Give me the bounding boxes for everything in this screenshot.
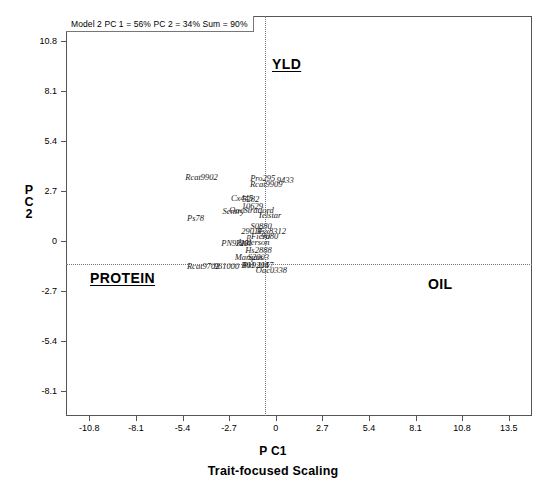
plot-area	[66, 16, 532, 416]
y-axis-tick-label: 8.1	[44, 86, 57, 96]
y-axis-tick-label: 0	[52, 236, 57, 246]
y-axis-title: P C 2	[22, 184, 36, 220]
x-axis-tick-mark	[183, 416, 184, 421]
x-axis-tick-label: 2.7	[316, 423, 329, 433]
y-axis-tick-label: -8.1	[41, 386, 57, 396]
trait-label-yld: YLD	[272, 56, 301, 72]
y-axis-tick-mark	[61, 41, 66, 42]
y-axis-tick-mark	[61, 341, 66, 342]
data-point-label: Rcat9909	[250, 179, 283, 189]
x-axis-tick-mark	[509, 416, 510, 421]
y-axis-tick-mark	[61, 191, 66, 192]
scaling-caption: Trait-focused Scaling	[0, 464, 546, 478]
x-axis-tick-mark	[229, 416, 230, 421]
x-axis-tick-label: 8.1	[409, 423, 422, 433]
x-axis-title: P C1	[0, 444, 546, 458]
data-point-label: Telstar	[258, 210, 281, 220]
y-axis-tick-label: -5.4	[41, 336, 57, 346]
x-axis-tick-label: 5.4	[363, 423, 376, 433]
x-axis-tick-mark	[89, 416, 90, 421]
x-axis-tick-label: 10.8	[453, 423, 471, 433]
data-point-label: Oac0338	[256, 265, 287, 275]
trait-label-oil: OIL	[428, 276, 453, 292]
model-annotation-box: Model 2 PC 1 = 56% PC 2 = 34% Sum = 90%	[66, 16, 254, 32]
trait-label-protein: PROTEIN	[90, 270, 155, 286]
y-axis-tick-mark	[61, 291, 66, 292]
y-axis-tick-mark	[61, 91, 66, 92]
x-axis-tick-label: 13.5	[500, 423, 518, 433]
x-axis-tick-mark	[369, 416, 370, 421]
y-axis-title-line-3: 2	[22, 208, 36, 220]
x-axis-tick-mark	[276, 416, 277, 421]
y-axis-tick-mark	[61, 391, 66, 392]
x-axis-tick-label: -10.8	[79, 423, 100, 433]
x-axis-tick-mark	[322, 416, 323, 421]
x-axis-tick-mark	[136, 416, 137, 421]
x-axis-tick-mark	[416, 416, 417, 421]
y-axis-tick-label: -2.7	[41, 286, 57, 296]
data-point-label: 961000	[214, 261, 240, 271]
y-axis-tick-label: 5.4	[44, 136, 57, 146]
x-axis-tick-label: 0	[273, 423, 278, 433]
horizontal-zero-reference-line	[66, 264, 532, 265]
x-axis-tick-mark	[462, 416, 463, 421]
x-axis-tick-label: -2.7	[221, 423, 237, 433]
x-axis-tick-label: -5.4	[175, 423, 191, 433]
y-axis-tick-mark	[61, 141, 66, 142]
pca-biplot-figure: Model 2 PC 1 = 56% PC 2 = 34% Sum = 90% …	[0, 0, 546, 497]
y-axis-tick-label: 2.7	[44, 186, 57, 196]
data-point-label: Rcat9902	[185, 172, 218, 182]
y-axis-tick-mark	[61, 241, 66, 242]
x-axis-tick-label: -8.1	[128, 423, 144, 433]
y-axis-tick-label: 10.8	[39, 36, 57, 46]
data-point-label: Ps78	[187, 213, 204, 223]
